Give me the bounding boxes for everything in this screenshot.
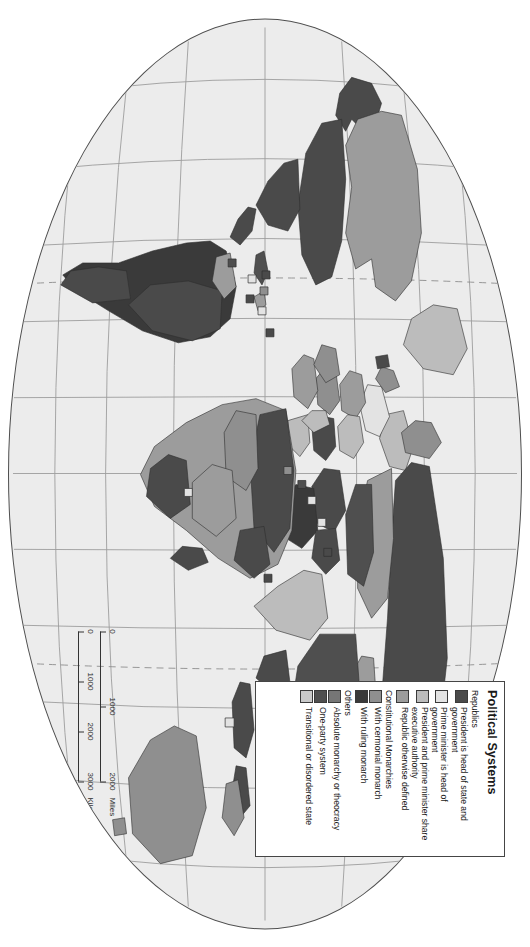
legend-label: One-party system	[317, 707, 326, 775]
scale-tick-miles-2000: 2000	[108, 772, 117, 790]
legend-group-heading: Constitutional Monarchies	[383, 690, 393, 848]
legend-group-others: Others Absolute monarchy or theocracy On…	[300, 690, 352, 848]
legend-title: Political Systems	[484, 690, 498, 848]
legend-item[interactable]: Republic otherwise defined	[396, 690, 409, 848]
legend-label: President is head of state and governmen…	[449, 707, 468, 848]
legend-item[interactable]: One-party system	[314, 690, 327, 848]
legend-label: Prime minister is head of government	[430, 707, 449, 848]
legend-label: With cermonial monarch	[372, 707, 381, 800]
legend-group-republics: Republics President is head of state and…	[396, 690, 480, 848]
scale-tick-km-1000: 1000	[86, 672, 95, 690]
legend-label: Absolute monarchy or theocracy	[331, 707, 340, 830]
legend-item[interactable]: Transitional or disordered state	[300, 690, 313, 848]
scale-unit-miles: Miles	[108, 797, 117, 816]
scale-bar: 0 1000 2000 Miles 0 1000 2000 3000 Kilom…	[39, 631, 113, 836]
legend-group-heading: Others	[342, 690, 352, 848]
legend-label: Republic otherwise defined	[399, 707, 408, 810]
legend-swatch-prime-minister-head	[435, 690, 448, 703]
legend-swatch-republic-otherwise	[396, 690, 409, 703]
legend-item[interactable]: Prime minister is head of government	[430, 690, 449, 848]
legend-swatch-absolute-monarchy	[328, 690, 341, 703]
scale-bar-kilometers: 0 1000 2000 3000 Kilometers	[69, 631, 91, 836]
legend-swatch-transitional-state	[300, 690, 313, 703]
scale-tick-km-2000: 2000	[86, 722, 95, 740]
scale-rule-kilometers	[78, 631, 79, 781]
legend-group-constitutional-monarchies: Constitutional Monarchies With cermonial…	[355, 690, 393, 848]
legend-item[interactable]: With cermonial monarch	[369, 690, 382, 848]
legend-label: Transitional or disordered state	[303, 707, 312, 825]
legend-label: With ruling monarch	[358, 707, 367, 783]
legend-swatch-shared-executive	[416, 690, 429, 703]
legend-swatch-ceremonial-monarch	[369, 690, 382, 703]
legend-swatch-ruling-monarch	[355, 690, 368, 703]
legend-item[interactable]: President and prime minister share execu…	[410, 690, 429, 848]
scale-tick-km-0: 0	[86, 629, 95, 633]
scale-tick-miles-1000: 1000	[108, 697, 117, 715]
map-legend: Political Systems Republics President is…	[255, 681, 505, 857]
scale-unit-kilometers: Kilometers	[86, 797, 95, 835]
scale-tick-km-3000: 3000	[86, 772, 95, 790]
scale-tick-miles-0: 0	[108, 629, 117, 633]
legend-item[interactable]: President is head of state and governmen…	[449, 690, 468, 848]
legend-label: President and prime minister share execu…	[410, 707, 429, 848]
legend-swatch-one-party-system	[314, 690, 327, 703]
legend-item[interactable]: With ruling monarch	[355, 690, 368, 848]
legend-group-heading: Republics	[469, 690, 479, 848]
legend-swatch-president-head-of-state	[455, 690, 468, 703]
legend-item[interactable]: Absolute monarchy or theocracy	[328, 690, 341, 848]
